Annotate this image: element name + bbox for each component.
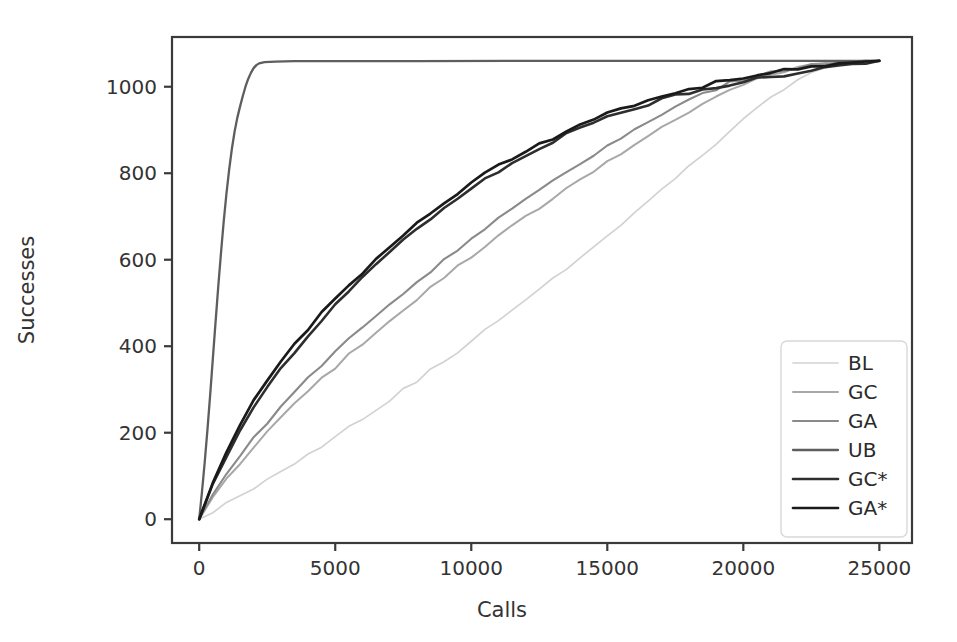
- x-tick-label: 0: [193, 556, 206, 580]
- x-tick-label: 25000: [848, 556, 912, 580]
- y-tick-label: 1000: [106, 75, 157, 99]
- y-tick-label: 0: [144, 507, 157, 531]
- y-tick-label: 800: [119, 161, 157, 185]
- x-tick-label: 10000: [439, 556, 503, 580]
- y-tick-label: 400: [119, 334, 157, 358]
- legend-label-ga-star: GA*: [848, 496, 887, 520]
- y-tick-label: 600: [119, 248, 157, 272]
- x-tick-label: 5000: [310, 556, 361, 580]
- chart-figure: 0500010000150002000025000 02004006008001…: [0, 0, 957, 642]
- x-tick-label: 15000: [575, 556, 639, 580]
- y-tick-label: 200: [119, 421, 157, 445]
- line-chart: 0500010000150002000025000 02004006008001…: [0, 0, 957, 642]
- legend-label-gc-star: GC*: [848, 467, 887, 491]
- legend-label-gc: GC: [848, 380, 877, 404]
- x-tick-label: 20000: [712, 556, 776, 580]
- chart-legend[interactable]: BLGCGAUBGC*GA*: [781, 341, 907, 537]
- legend-label-bl: BL: [848, 351, 874, 375]
- legend-label-ub: UB: [848, 438, 876, 462]
- y-axis-title: Successes: [15, 236, 39, 344]
- x-axis-title: Calls: [477, 598, 527, 622]
- legend-label-ga: GA: [848, 409, 877, 433]
